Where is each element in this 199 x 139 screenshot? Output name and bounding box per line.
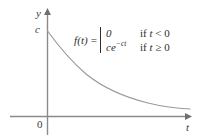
- plot-canvas: [0, 0, 199, 139]
- formula-case-brace: [100, 27, 101, 53]
- formula-case-row: 0 if t < 0: [106, 27, 170, 39]
- y-axis-arrowhead: [44, 8, 51, 15]
- y-intercept-label: c: [35, 24, 40, 35]
- case-2-exponent: −ct: [116, 39, 126, 48]
- case-2-cond-prefix: if: [140, 41, 149, 53]
- case-1-expression: 0: [106, 27, 140, 39]
- formula-equals-sign: =: [90, 34, 100, 46]
- x-axis-label: t: [186, 122, 189, 133]
- formula-cases: 0 if t < 0 ce−ct if t ≥ 0: [106, 27, 170, 53]
- formula-case-row: ce−ct if t ≥ 0: [106, 41, 170, 53]
- case-1-cond-prefix: if: [140, 27, 149, 39]
- piecewise-formula: f(t) = 0 if t < 0 ce−ct if t ≥ 0: [74, 27, 170, 53]
- exponential-density-figure: y c 0 t f(t) = 0 if t < 0 ce−ct if t ≥ 0: [0, 0, 199, 139]
- case-1-base: 0: [106, 27, 112, 39]
- case-2-cond-rest: ≥ 0: [153, 41, 170, 53]
- case-2-expression: ce−ct: [106, 41, 140, 53]
- case-1-condition: if t < 0: [140, 27, 170, 39]
- x-axis-arrowhead: [185, 113, 192, 120]
- case-2-condition: if t ≥ 0: [140, 41, 170, 53]
- case-2-base: ce: [106, 41, 116, 53]
- formula-left-hand-side: f(t): [74, 34, 90, 46]
- origin-label: 0: [37, 119, 43, 130]
- case-1-cond-rest: < 0: [153, 27, 170, 39]
- y-axis-label: y: [36, 8, 41, 19]
